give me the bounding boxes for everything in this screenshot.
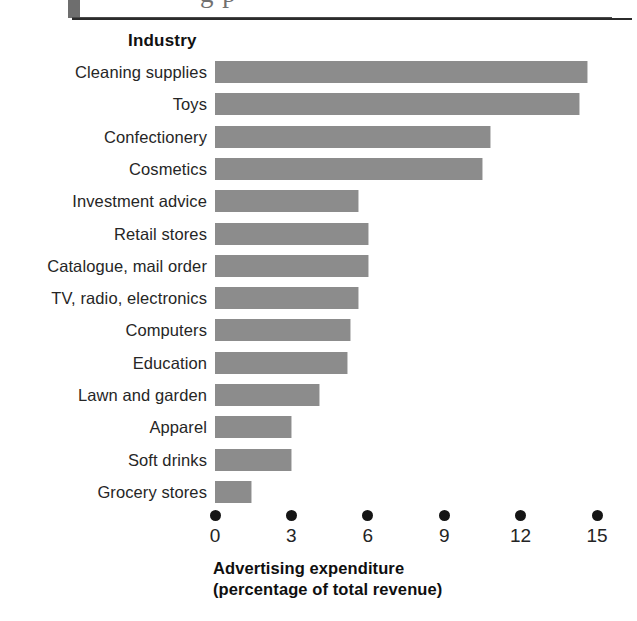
bar [215,190,359,212]
bar-category-label: Investment advice [0,189,207,213]
x-tick-dot [439,510,450,521]
bar-row: Soft drinks [0,448,637,472]
bar-row: Catalogue, mail order [0,254,637,278]
bar-category-label: Grocery stores [0,480,207,504]
bar-row: Cosmetics [0,157,637,181]
bar [215,223,369,245]
chart-page: g p Industry Cleaning suppliesToysConfec… [0,0,637,621]
category-axis-title: Industry [128,31,197,51]
bar [215,126,491,148]
bar-category-label: Toys [0,92,207,116]
x-tick-label: 12 [496,525,546,547]
bar-category-label: Confectionery [0,125,207,149]
bar [215,61,588,83]
bar-category-label: Education [0,351,207,375]
bar [215,449,292,471]
bar-row: Grocery stores [0,480,637,504]
bar [215,287,359,309]
bar-category-label: Catalogue, mail order [0,254,207,278]
x-tick-dot [592,510,603,521]
bar-row: Toys [0,92,637,116]
x-tick-dot [286,510,297,521]
bar-category-label: Computers [0,318,207,342]
bar-row: Computers [0,318,637,342]
bar-row: Education [0,351,637,375]
bar-category-label: Cosmetics [0,157,207,181]
bar [215,384,320,406]
bar-category-label: Lawn and garden [0,383,207,407]
bar-category-label: Apparel [0,415,207,439]
bar-category-label: Retail stores [0,222,207,246]
bar-category-label: Cleaning supplies [0,60,207,84]
x-tick-dot [362,510,373,521]
bar-row: TV, radio, electronics [0,286,637,310]
bar-row: Lawn and garden [0,383,637,407]
bar [215,352,348,374]
x-tick-label: 9 [419,525,469,547]
bar-row: Apparel [0,415,637,439]
bar [215,93,580,115]
x-tick-dot [515,510,526,521]
x-axis: 03691215 [0,505,637,555]
x-tick-label: 15 [572,525,622,547]
x-tick-label: 6 [343,525,393,547]
x-axis-title-line2: (percentage of total revenue) [213,579,613,600]
bar-category-label: TV, radio, electronics [0,286,207,310]
x-axis-title-line1: Advertising expenditure [213,559,404,577]
x-tick-label: 3 [266,525,316,547]
bar [215,158,483,180]
bar-row: Cleaning supplies [0,60,637,84]
x-axis-title: Advertising expenditure (percentage of t… [213,558,613,600]
bar [215,255,369,277]
bar [215,481,252,503]
bar-row: Retail stores [0,222,637,246]
bar-row: Confectionery [0,125,637,149]
x-tick-dot [210,510,221,521]
bar-chart: Industry Cleaning suppliesToysConfection… [0,0,637,621]
x-tick-label: 0 [190,525,240,547]
bar-row: Investment advice [0,189,637,213]
bar-category-label: Soft drinks [0,448,207,472]
bar [215,416,292,438]
bar [215,319,351,341]
